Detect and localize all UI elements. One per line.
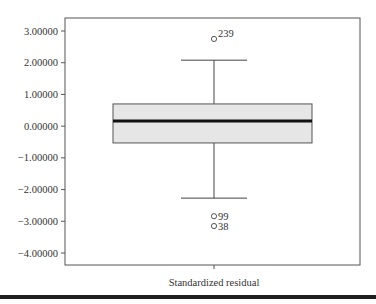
y-tick-label: 1.00000 <box>24 89 58 100</box>
outlier-label: 239 <box>218 28 234 39</box>
y-tick-label: 3.00000 <box>24 26 58 37</box>
outlier-marker <box>211 36 216 41</box>
y-tick-label: 2.00000 <box>24 57 58 68</box>
bottom-rule <box>0 295 376 299</box>
box-element <box>113 60 312 198</box>
y-tick-label: −1.00000 <box>18 152 58 163</box>
outlier-marker <box>211 214 216 219</box>
y-axis: 3.000002.000001.000000.00000−1.00000−2.0… <box>18 26 65 259</box>
x-axis-label: Standardized residual <box>169 277 260 288</box>
outlier-marker <box>211 223 216 228</box>
y-tick-label: −3.00000 <box>18 216 58 227</box>
y-tick-label: −2.00000 <box>18 184 58 195</box>
boxplot-chart: 3.000002.000001.000000.00000−1.00000−2.0… <box>0 0 376 304</box>
y-tick-label: −4.00000 <box>18 248 58 259</box>
outlier-label: 38 <box>218 221 229 232</box>
iqr-box <box>113 104 312 143</box>
y-tick-label: 0.00000 <box>24 121 58 132</box>
x-axis: Standardized residual <box>169 265 260 288</box>
